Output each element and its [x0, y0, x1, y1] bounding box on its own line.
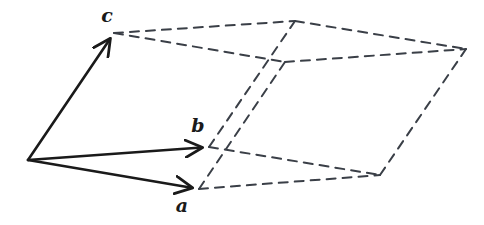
label-vector-b: b [191, 114, 204, 136]
diagram-background [0, 0, 484, 225]
parallelepiped-diagram: a b c [0, 0, 484, 225]
label-vector-a: a [176, 194, 188, 216]
label-vector-c: c [101, 4, 113, 26]
